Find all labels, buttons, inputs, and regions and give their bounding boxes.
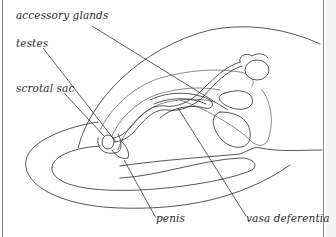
label-testes: testes xyxy=(16,37,48,49)
tail-inner xyxy=(52,146,255,190)
label-vasa-deferentia: vasa deferentia xyxy=(246,212,330,224)
internal-outline-4 xyxy=(180,90,271,145)
vas-deferens-2 xyxy=(114,66,242,142)
label-accessory-glands: accessory glands xyxy=(16,9,108,21)
diagram-frame: accessory glands testes scrotal sac peni… xyxy=(0,0,336,237)
testis-large xyxy=(245,60,269,80)
accessory-gland-upper xyxy=(219,91,252,110)
label-penis: penis xyxy=(156,212,185,224)
leader-accessory-glands xyxy=(92,26,228,110)
label-scrotal-sac: scrotal sac xyxy=(16,82,74,94)
body-outline xyxy=(78,27,320,148)
anatomy-drawing xyxy=(0,0,336,237)
leader-testes xyxy=(43,48,116,142)
accessory-gland-lower xyxy=(213,112,250,147)
belly-line xyxy=(120,147,322,166)
vas-deferens-1 xyxy=(112,62,240,138)
